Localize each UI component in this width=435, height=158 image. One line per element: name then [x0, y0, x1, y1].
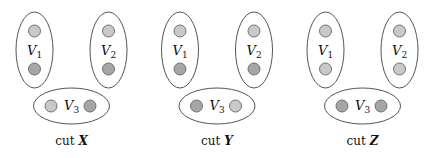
group-v1-label: V1	[318, 43, 333, 60]
cut-diagrams: V1 V2 V3 cutX V1 V2 V3 cutY V1 V2	[0, 0, 435, 158]
node-v3-right	[375, 100, 387, 112]
node-v1-bottom	[174, 63, 186, 75]
caption: cutZ	[346, 134, 379, 148]
node-v1-bottom	[320, 63, 332, 75]
node-v3-left	[336, 100, 348, 112]
group-v3-label: V3	[355, 98, 370, 115]
group-v2-label: V2	[247, 43, 262, 60]
node-v2-bottom	[394, 63, 406, 75]
node-v3-right	[84, 100, 96, 112]
node-v1-top	[174, 25, 186, 37]
group-v2-label: V2	[101, 43, 116, 60]
node-v1-top	[320, 25, 332, 37]
caption: cutX	[55, 134, 88, 148]
panel-cut-y: V1 V2 V3 cutY	[162, 12, 273, 148]
panel-cut-x: V1 V2 V3 cutX	[16, 12, 127, 148]
node-v1-bottom	[29, 63, 41, 75]
node-v2-bottom	[103, 63, 115, 75]
node-v2-top	[248, 25, 260, 37]
node-v2-top	[394, 25, 406, 37]
node-v3-left	[191, 100, 203, 112]
group-v3-label: V3	[210, 98, 225, 115]
node-v1-top	[29, 25, 41, 37]
panel-cut-z: V1 V2 V3 cutZ	[307, 12, 418, 148]
node-v3-right	[230, 100, 242, 112]
node-v2-top	[103, 25, 115, 37]
node-v3-left	[45, 100, 57, 112]
node-v2-bottom	[248, 63, 260, 75]
group-v1-label: V1	[27, 43, 42, 60]
group-v3-label: V3	[64, 98, 79, 115]
caption: cutY	[201, 134, 234, 148]
group-v1-label: V1	[173, 43, 188, 60]
group-v2-label: V2	[392, 43, 407, 60]
